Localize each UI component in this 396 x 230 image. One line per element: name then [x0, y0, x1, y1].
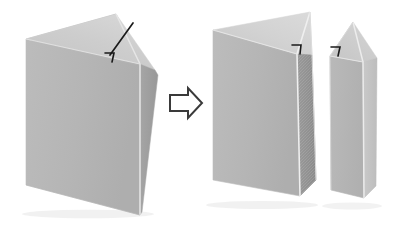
figure-illustration	[0, 0, 396, 230]
narrow-folded-wedge	[322, 22, 382, 209]
wedge-front-face	[330, 56, 364, 198]
after-cut-shapes	[206, 12, 382, 209]
large-piece-front-face	[213, 30, 300, 196]
wedge-right-face	[363, 58, 377, 198]
wedge-shadow	[322, 203, 382, 210]
transformation-arrow	[170, 88, 202, 118]
large-piece-shadow	[206, 201, 318, 209]
before-right-face	[140, 64, 158, 215]
before-cut-shape	[22, 14, 158, 218]
large-folded-piece	[206, 12, 318, 209]
wedge-top-face	[330, 22, 377, 62]
arrow-right-icon	[170, 88, 202, 118]
figure-canvas: A grey folded paper prism with a diagona…	[0, 0, 396, 230]
